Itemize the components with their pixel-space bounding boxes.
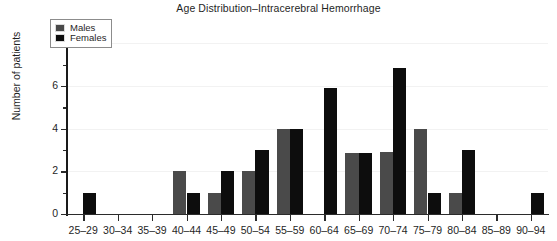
bar-females-75–79 — [428, 193, 441, 214]
gridline — [66, 129, 548, 130]
x-axis-line — [66, 214, 549, 216]
x-tick — [393, 215, 394, 221]
x-tick — [152, 215, 153, 221]
x-tick-label: 75–79 — [413, 224, 442, 236]
legend-item-males[interactable]: Males — [55, 23, 106, 33]
y-tick-minor — [63, 107, 67, 108]
y-tick-minor — [63, 150, 67, 151]
bar-males-65–69 — [345, 153, 358, 214]
y-tick — [61, 129, 66, 130]
x-tick — [496, 215, 497, 221]
bar-males-75–79 — [414, 129, 427, 214]
x-tick — [359, 215, 360, 221]
bar-females-80–84 — [462, 150, 475, 214]
x-tick-label: 60–64 — [310, 224, 339, 236]
bar-females-40–44 — [187, 193, 200, 214]
x-tick-label: 85–89 — [482, 224, 511, 236]
x-tick — [118, 215, 119, 221]
legend-swatch-females-icon — [55, 34, 65, 42]
gridline — [66, 86, 548, 87]
bar-males-80–84 — [449, 193, 462, 214]
legend-item-females[interactable]: Females — [55, 33, 106, 43]
y-tick-label: 4 — [42, 122, 58, 134]
x-tick-label: 80–84 — [447, 224, 476, 236]
x-tick-label: 90–94 — [516, 224, 545, 236]
x-tick — [221, 215, 222, 221]
y-tick-label: 6 — [42, 79, 58, 91]
x-tick-label: 50–54 — [241, 224, 270, 236]
x-tick-label: 70–74 — [378, 224, 407, 236]
gridline — [66, 43, 548, 44]
bar-males-55–59 — [277, 129, 290, 214]
y-tick — [61, 171, 66, 172]
x-tick-label: 65–69 — [344, 224, 373, 236]
x-tick — [462, 215, 463, 221]
x-tick-label: 35–39 — [137, 224, 166, 236]
x-tick — [531, 215, 532, 221]
y-axis-line — [66, 33, 68, 216]
x-tick — [324, 215, 325, 221]
bar-females-45–49 — [221, 171, 234, 214]
x-tick-label: 25–29 — [69, 224, 98, 236]
x-tick — [187, 215, 188, 221]
bar-females-65–69 — [359, 153, 372, 214]
x-tick — [428, 215, 429, 221]
bar-females-70–74 — [393, 68, 406, 214]
chart-legend: Males Females — [50, 19, 112, 48]
y-tick — [61, 86, 66, 87]
y-tick-minor — [63, 65, 67, 66]
bar-females-55–59 — [290, 129, 303, 214]
x-tick — [83, 215, 84, 221]
y-axis-title: Number of patients — [10, 6, 22, 146]
bar-males-70–74 — [380, 152, 393, 214]
x-tick-label: 30–34 — [103, 224, 132, 236]
y-tick-minor — [63, 193, 67, 194]
chart-title: Age Distribution–Intracerebral Hemorrhag… — [0, 2, 557, 14]
x-tick-label: 40–44 — [172, 224, 201, 236]
legend-label-males: Males — [70, 23, 95, 33]
x-tick-label: 45–49 — [206, 224, 235, 236]
x-tick — [290, 215, 291, 221]
legend-label-females: Females — [70, 33, 106, 43]
plot-area — [66, 37, 548, 214]
x-tick — [255, 215, 256, 221]
age-distribution-bar-chart: Age Distribution–Intracerebral Hemorrhag… — [0, 0, 557, 241]
bar-males-50–54 — [242, 171, 255, 214]
y-tick-label: 2 — [42, 164, 58, 176]
x-tick-label: 55–59 — [275, 224, 304, 236]
bar-males-45–49 — [208, 193, 221, 214]
gridline — [66, 171, 548, 172]
bar-females-60–64 — [324, 88, 337, 214]
bar-males-40–44 — [173, 171, 186, 214]
bar-females-25–29 — [83, 193, 96, 214]
bar-females-50–54 — [255, 150, 268, 214]
y-tick-label: 0 — [42, 207, 58, 219]
bar-females-90–94 — [531, 193, 544, 214]
y-tick — [61, 214, 66, 215]
legend-swatch-males-icon — [55, 24, 65, 32]
